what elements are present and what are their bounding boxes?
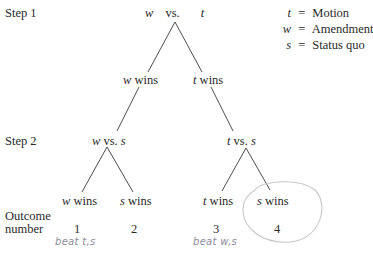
leaf-1: w wins xyxy=(62,194,97,208)
leaf-4: s wins xyxy=(257,194,289,208)
handwritten-note-3: beat w,s xyxy=(193,236,237,247)
root-contest: w vs. t xyxy=(145,6,204,20)
var: w xyxy=(62,194,70,208)
legend-meaning: Amendment xyxy=(312,22,373,36)
sep: vs. xyxy=(234,134,248,148)
level2-right-contest: t vs. s xyxy=(227,134,256,148)
sep: vs. xyxy=(103,134,117,148)
edge-root-left xyxy=(148,22,175,72)
var: t xyxy=(203,194,206,208)
legend-meaning: Status quo xyxy=(312,38,364,52)
step1-label: Step 1 xyxy=(5,6,37,20)
var: w xyxy=(123,73,131,87)
circle-annotation xyxy=(243,182,322,242)
root-sep: vs. xyxy=(165,6,179,20)
legend-row-w: w = Amendment xyxy=(279,22,373,36)
edge-right-down xyxy=(211,87,233,131)
handwritten-note-1: beat t,s xyxy=(55,236,95,247)
outcome-label-line1: Outcome xyxy=(5,209,51,223)
edge-ws-right xyxy=(107,147,133,192)
legend-row-t: t = Motion xyxy=(279,6,349,20)
level1-right: t wins xyxy=(193,73,223,87)
wins-text: wins xyxy=(134,73,158,87)
wins-text: wins xyxy=(73,194,97,208)
step2-label: Step 2 xyxy=(5,134,37,148)
edge-root-right xyxy=(175,22,202,72)
outcome-number-4: 4 xyxy=(274,222,280,236)
wins-text: wins xyxy=(265,194,289,208)
wins-text: wins xyxy=(128,194,152,208)
legend-eq: = xyxy=(298,6,305,20)
var: s xyxy=(120,194,125,208)
var: s xyxy=(121,134,126,148)
legend-eq: = xyxy=(298,22,305,36)
var: s xyxy=(251,134,256,148)
legend-row-s: s = Status quo xyxy=(279,38,365,52)
legend-var: w xyxy=(279,22,291,36)
outcome-number-3: 3 xyxy=(213,222,219,236)
edge-left-down xyxy=(117,87,139,131)
legend-var: s xyxy=(279,38,291,52)
level1-left: w wins xyxy=(123,73,158,87)
outcome-number-2: 2 xyxy=(131,222,137,236)
level2-left-contest: w vs. s xyxy=(92,134,126,148)
outcome-number-1: 1 xyxy=(74,222,80,236)
wins-text: wins xyxy=(210,194,234,208)
legend-var: t xyxy=(279,6,291,20)
outcome-label-line2: number xyxy=(5,222,43,236)
legend-meaning: Motion xyxy=(312,6,349,20)
var: t xyxy=(193,73,196,87)
leaf-3: t wins xyxy=(203,194,233,208)
var: w xyxy=(92,134,100,148)
root-right-var: t xyxy=(201,6,204,20)
wins-text: wins xyxy=(200,73,224,87)
root-left-var: w xyxy=(145,6,153,20)
leaf-2: s wins xyxy=(120,194,152,208)
legend-eq: = xyxy=(298,38,305,52)
edge-ts-left xyxy=(222,148,246,191)
edge-ws-left xyxy=(82,147,107,192)
var: s xyxy=(257,194,262,208)
var: t xyxy=(227,134,230,148)
